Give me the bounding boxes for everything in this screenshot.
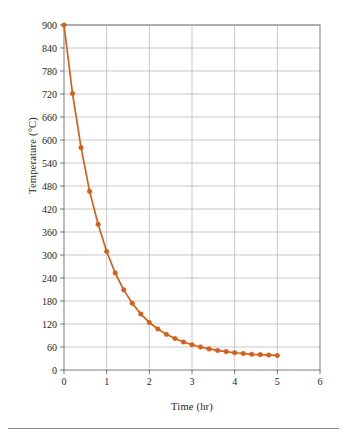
data-point-marker	[249, 352, 254, 357]
plot-area: 0601201802403003604204805406006607207808…	[0, 0, 347, 437]
y-tick-label: 240	[42, 273, 57, 284]
y-tick-label: 180	[42, 296, 57, 307]
x-tick-label: 5	[275, 376, 280, 387]
y-tick-label: 420	[42, 204, 57, 215]
y-tick-label: 840	[42, 43, 57, 54]
data-point-marker	[121, 288, 126, 293]
y-tick-label: 120	[42, 319, 57, 330]
x-gridlines	[107, 25, 278, 370]
data-point-marker	[198, 345, 203, 350]
data-point-marker	[87, 189, 92, 194]
data-point-marker	[79, 145, 84, 150]
data-point-marker	[70, 91, 75, 96]
data-point-marker	[62, 23, 67, 28]
y-tick-marks	[60, 25, 64, 370]
data-point-marker	[164, 332, 169, 337]
data-point-marker	[267, 353, 272, 358]
x-tick-label: 2	[147, 376, 152, 387]
y-tick-label: 720	[42, 89, 57, 100]
y-tick-label: 660	[42, 112, 57, 123]
y-tick-label: 300	[42, 250, 57, 261]
data-point-marker	[113, 271, 118, 276]
series-markers	[62, 23, 280, 358]
y-tick-label: 540	[42, 158, 57, 169]
x-tick-marks	[64, 370, 320, 374]
footer-divider	[8, 428, 339, 429]
y-tick-label: 780	[42, 66, 57, 77]
data-point-marker	[96, 222, 101, 227]
y-tick-label: 600	[42, 135, 57, 146]
data-point-marker	[207, 347, 212, 352]
data-point-marker	[104, 249, 109, 254]
x-tick-label: 4	[232, 376, 237, 387]
data-point-marker	[241, 351, 246, 356]
x-tick-label: 0	[62, 376, 67, 387]
data-point-marker	[258, 352, 263, 357]
data-point-marker	[130, 301, 135, 306]
y-tick-label: 360	[42, 227, 57, 238]
data-point-marker	[215, 348, 220, 353]
y-tick-label: 0	[52, 365, 57, 376]
data-point-marker	[190, 342, 195, 347]
x-tick-label: 3	[190, 376, 195, 387]
data-point-marker	[173, 336, 178, 341]
y-tick-labels: 0601201802403003604204805406006607207808…	[42, 20, 57, 376]
temperature-curve	[64, 25, 277, 355]
data-point-marker	[224, 349, 229, 354]
data-point-marker	[147, 320, 152, 325]
y-tick-label: 900	[42, 20, 57, 31]
y-tick-label: 480	[42, 181, 57, 192]
data-point-marker	[156, 327, 161, 332]
x-tick-label: 1	[104, 376, 109, 387]
data-point-marker	[181, 340, 186, 345]
data-point-marker	[139, 312, 144, 317]
y-tick-label: 60	[47, 342, 57, 353]
chart-figure: Temperature (°C) Time (hr) 0601201802403…	[0, 0, 347, 437]
series-line	[64, 25, 277, 355]
x-tick-labels: 0123456	[62, 376, 323, 387]
x-tick-label: 6	[318, 376, 323, 387]
data-point-marker	[232, 350, 237, 355]
data-point-marker	[275, 353, 280, 358]
